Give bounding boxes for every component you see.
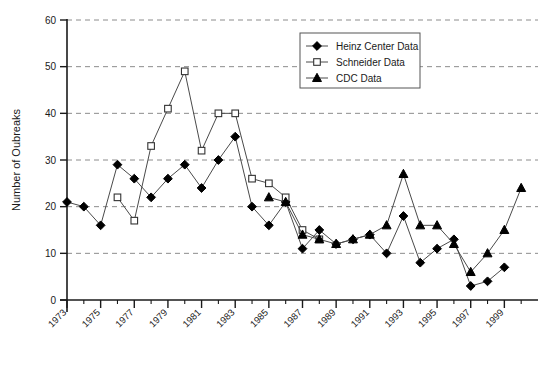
x-tick-label-1973: 1973 bbox=[46, 307, 69, 330]
series-line-0 bbox=[67, 137, 504, 286]
y-tick-label-40: 40 bbox=[45, 108, 57, 119]
data-point-1-1978 bbox=[148, 143, 155, 150]
data-point-0-1993 bbox=[399, 212, 408, 221]
data-point-0-1973 bbox=[63, 198, 72, 207]
legend-marker-1 bbox=[314, 59, 321, 66]
series-cdc-data bbox=[264, 169, 525, 275]
y-tick-label-50: 50 bbox=[45, 61, 57, 72]
chart-container: 0102030405060197319751977197919811983198… bbox=[0, 0, 546, 365]
x-tick-label-1993: 1993 bbox=[382, 307, 405, 330]
x-tick-label-1975: 1975 bbox=[79, 307, 102, 330]
x-tick-label-1977: 1977 bbox=[113, 307, 136, 330]
data-point-0-1982 bbox=[214, 156, 223, 165]
legend-label-0: Heinz Center Data bbox=[336, 41, 419, 52]
x-tick-label-1999: 1999 bbox=[483, 307, 506, 330]
data-point-0-1997 bbox=[466, 282, 475, 291]
y-tick-label-0: 0 bbox=[50, 295, 56, 306]
x-tick-label-1991: 1991 bbox=[348, 307, 371, 330]
data-point-0-1981 bbox=[197, 184, 206, 193]
legend-label-1: Schneider Data bbox=[336, 57, 405, 68]
data-point-1-1983 bbox=[232, 110, 239, 117]
data-point-0-1983 bbox=[231, 132, 240, 141]
data-point-1-1980 bbox=[181, 68, 188, 75]
data-point-2-1994 bbox=[416, 221, 425, 229]
data-point-1-1979 bbox=[165, 105, 172, 112]
data-point-1-1976 bbox=[114, 194, 121, 201]
outbreaks-line-chart: 0102030405060197319751977197919811983198… bbox=[0, 0, 546, 365]
y-tick-label-30: 30 bbox=[45, 155, 57, 166]
data-point-2-1985 bbox=[264, 193, 273, 201]
x-tick-label-1981: 1981 bbox=[180, 307, 203, 330]
data-point-1-1982 bbox=[215, 110, 222, 117]
data-point-2-1992 bbox=[382, 221, 391, 229]
x-tick-label-1979: 1979 bbox=[147, 307, 170, 330]
data-point-2-1998 bbox=[483, 249, 492, 257]
legend-label-2: CDC Data bbox=[336, 73, 382, 84]
data-point-1-1977 bbox=[131, 217, 138, 224]
y-tick-label-10: 10 bbox=[45, 248, 57, 259]
data-point-1-1985 bbox=[266, 180, 273, 187]
data-point-2-1993 bbox=[399, 169, 408, 177]
y-tick-label-20: 20 bbox=[45, 201, 57, 212]
data-point-1-1984 bbox=[249, 175, 256, 182]
x-tick-label-1997: 1997 bbox=[449, 307, 472, 330]
x-tick-label-1989: 1989 bbox=[315, 307, 338, 330]
data-point-1-1981 bbox=[198, 147, 205, 154]
legend: Heinz Center DataSchneider DataCDC Data bbox=[300, 33, 420, 88]
y-tick-label-60: 60 bbox=[45, 15, 57, 26]
x-tick-label-1983: 1983 bbox=[214, 307, 237, 330]
data-point-2-1999 bbox=[500, 225, 509, 233]
data-point-2-2000 bbox=[517, 183, 526, 191]
series-heinz-center-data bbox=[63, 132, 509, 290]
x-tick-label-1987: 1987 bbox=[281, 307, 304, 330]
x-tick-label-1985: 1985 bbox=[248, 307, 271, 330]
data-point-2-1995 bbox=[433, 221, 442, 229]
x-tick-label-1995: 1995 bbox=[416, 307, 439, 330]
y-axis-title: Number of Oubreaks bbox=[10, 108, 22, 211]
